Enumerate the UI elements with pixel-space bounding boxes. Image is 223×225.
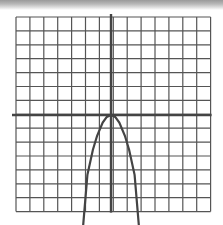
- axes: [12, 14, 212, 213]
- graph-plot: [0, 0, 223, 225]
